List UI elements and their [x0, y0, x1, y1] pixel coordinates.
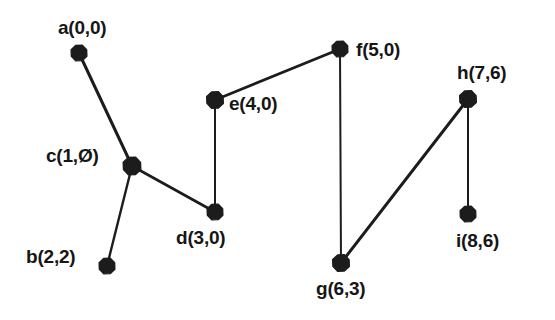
node-marker-b	[99, 258, 115, 274]
node-label-c: c(1,Ø)	[46, 146, 99, 165]
node-marker-c	[123, 157, 141, 175]
graph-edge-c-d	[132, 166, 215, 212]
graph-edge-g-h	[341, 99, 468, 263]
node-label-b: b(2,2)	[26, 247, 75, 266]
graph-node-c[interactable]	[123, 157, 141, 175]
graph-diagram: a(0,0)b(2,2)c(1,Ø)d(3,0)e(4,0)f(5,0)g(6,…	[0, 0, 555, 320]
graph-node-b[interactable]	[99, 258, 115, 274]
graph-edge-c-b	[107, 166, 132, 266]
node-marker-i	[460, 206, 476, 222]
node-label-d: d(3,0)	[176, 228, 225, 247]
node-label-a: a(0,0)	[58, 18, 106, 37]
node-label-g: g(6,3)	[316, 279, 365, 298]
graph-edge-f-g	[340, 49, 341, 263]
node-marker-e	[207, 92, 224, 109]
node-marker-a	[71, 45, 87, 61]
graph-node-f[interactable]	[332, 41, 348, 57]
graph-node-h[interactable]	[460, 91, 477, 108]
graph-node-a[interactable]	[71, 45, 87, 61]
graph-node-g[interactable]	[333, 255, 350, 272]
node-marker-h	[460, 91, 477, 108]
graph-node-e[interactable]	[207, 92, 224, 109]
node-marker-f	[332, 41, 348, 57]
node-label-h: h(7,6)	[457, 63, 506, 82]
edge-layer	[79, 49, 468, 266]
node-label-f: f(5,0)	[356, 40, 400, 59]
graph-node-i[interactable]	[460, 206, 476, 222]
node-marker-d	[207, 204, 223, 220]
node-label-e: e(4,0)	[229, 94, 277, 113]
node-marker-g	[333, 255, 350, 272]
graph-node-d[interactable]	[207, 204, 223, 220]
node-label-i: i(8,6)	[456, 231, 499, 250]
